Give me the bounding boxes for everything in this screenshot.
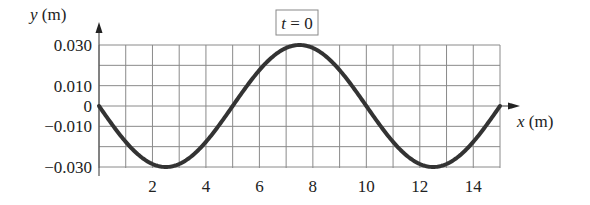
x-tick-label: 2 [148, 177, 157, 196]
y-tick-labels: 0.0300.0100−0.010−0.030 [44, 36, 92, 177]
x-axis-unit: (m) [525, 112, 554, 131]
x-tick-label: 8 [309, 177, 318, 196]
y-axis-var: y [28, 5, 38, 24]
y-tick-label: −0.010 [44, 117, 92, 136]
y-tick-label: 0.010 [54, 77, 92, 96]
x-tick-label: 6 [255, 177, 264, 196]
wave-chart: 0.0300.0100−0.010−0.030 2468101214 y (m)… [0, 0, 590, 205]
y-axis-arrow-icon [96, 22, 103, 33]
x-tick-labels: 2468101214 [148, 177, 482, 196]
y-axis-unit: (m) [38, 5, 67, 24]
y-tick-label: −0.030 [44, 158, 92, 177]
y-axis-label: y (m) [28, 5, 66, 24]
x-tick-label: 4 [202, 177, 211, 196]
grid [99, 45, 500, 168]
x-tick-label: 14 [465, 177, 483, 196]
y-tick-label: 0 [84, 97, 93, 116]
time-label: t = 0 [281, 14, 312, 33]
x-tick-label: 10 [358, 177, 375, 196]
x-axis-arrow-icon [508, 103, 520, 110]
x-axis-label: x (m) [516, 112, 553, 131]
x-tick-label: 12 [411, 177, 428, 196]
y-tick-label: 0.030 [54, 36, 92, 55]
